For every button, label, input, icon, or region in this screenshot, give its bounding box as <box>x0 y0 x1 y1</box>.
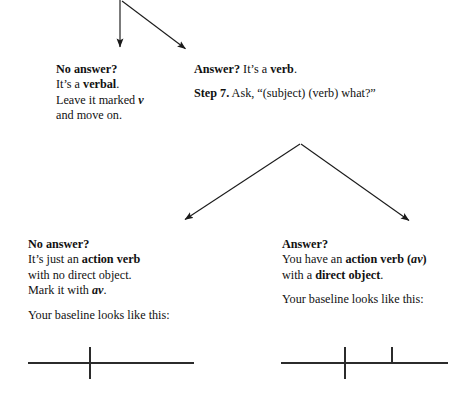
no-answer-verbal-line1: It’s a verbal. <box>56 77 144 92</box>
answer-verb-heading-line: Answer? It’s a verb. <box>194 62 376 77</box>
answer-verb-step7-line: Step 7. Ask, “(subject) (verb) what?” <box>194 86 376 101</box>
no-answer-av-line2: with no direct object. <box>28 268 170 283</box>
block-answer-direct-object: Answer? You have an action verb (av) wit… <box>282 237 427 308</box>
no-answer-av-heading: No answer? <box>28 237 170 252</box>
no-answer-verbal-heading: No answer? <box>56 62 144 77</box>
block-answer-verb: Answer? It’s a verb. Step 7. Ask, “(subj… <box>194 62 376 102</box>
arrow-down-right-to-answer-do <box>301 144 409 221</box>
answer-do-line2: with a direct object. <box>282 268 427 283</box>
no-answer-verbal-line2: Leave it marked v <box>56 93 144 108</box>
block-spacer <box>282 283 427 292</box>
no-answer-av-line1: It’s just an action verb <box>28 252 170 267</box>
no-answer-av-baseline-caption: Your baseline looks like this: <box>28 308 170 323</box>
baseline-action-verb-no-object <box>28 345 228 390</box>
baseline-action-verb-with-object <box>281 345 471 390</box>
block-no-answer-action-verb: No answer? It’s just an action verb with… <box>28 237 170 323</box>
no-answer-av-line3: Mark it with av. <box>28 283 170 298</box>
block-spacer <box>28 299 170 308</box>
arrow-diagonal-to-answer-verb <box>122 1 186 49</box>
answer-do-baseline-caption: Your baseline looks like this: <box>282 292 427 307</box>
answer-do-line1: You have an action verb (av) <box>282 252 427 267</box>
arrow-down-left-to-no-answer-av <box>185 144 300 220</box>
block-no-answer-verbal: No answer? It’s a verbal. Leave it marke… <box>56 62 144 124</box>
no-answer-verbal-line3: and move on. <box>56 108 144 123</box>
answer-do-heading: Answer? <box>282 237 427 252</box>
block-spacer <box>194 77 376 86</box>
